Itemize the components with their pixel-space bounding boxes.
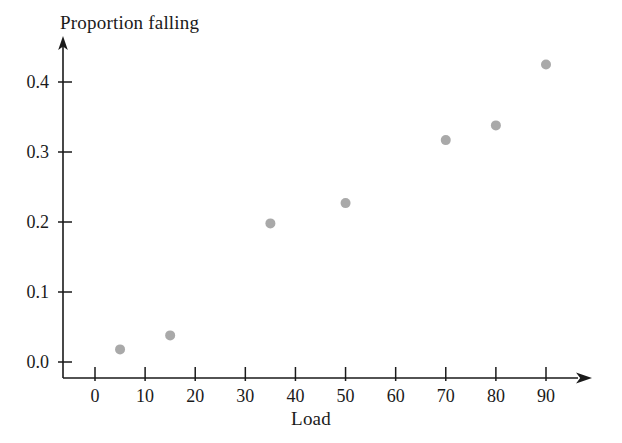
x-axis-tick-label: 90 — [537, 386, 555, 407]
x-axis-tick-label: 80 — [487, 386, 505, 407]
x-axis-tick-label: 20 — [186, 386, 204, 407]
data-point — [341, 198, 351, 208]
y-axis-tick-marks — [58, 82, 72, 362]
data-point — [441, 135, 451, 145]
y-axis-tick-label: 0.1 — [0, 282, 49, 303]
data-point — [491, 120, 501, 130]
y-axis-tick-label: 0.4 — [0, 72, 49, 93]
plot-area — [0, 0, 622, 443]
data-point — [115, 344, 125, 354]
data-point — [265, 218, 275, 228]
x-axis-tick-label: 40 — [286, 386, 304, 407]
x-axis-arrowhead — [576, 373, 592, 384]
data-point — [541, 60, 551, 70]
x-axis-tick-label: 0 — [91, 386, 100, 407]
x-axis-tick-marks — [95, 367, 546, 381]
y-axis-tick-label: 0.2 — [0, 212, 49, 233]
x-axis-tick-label: 60 — [387, 386, 405, 407]
x-axis-tick-label: 30 — [236, 386, 254, 407]
x-axis-tick-label: 70 — [437, 386, 455, 407]
x-axis-tick-label: 50 — [337, 386, 355, 407]
data-point — [165, 330, 175, 340]
y-axis-tick-label: 0.0 — [0, 352, 49, 373]
data-point-series — [115, 60, 551, 355]
y-axis-tick-label: 0.3 — [0, 142, 49, 163]
scatter-chart: Proportion falling Load 0.00.10.20.30.4 … — [0, 0, 622, 443]
x-axis-tick-label: 10 — [136, 386, 154, 407]
axis-lines — [58, 36, 592, 383]
